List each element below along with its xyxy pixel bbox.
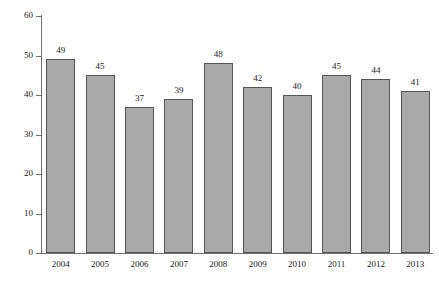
bar[interactable] — [322, 75, 351, 253]
bar-group[interactable]: 49 — [46, 16, 75, 253]
bar-chart: Average concentration of NO₂ (micrograms… — [0, 0, 439, 281]
x-axis-label: 2005 — [80, 258, 119, 270]
y-axis-tick-mark — [36, 253, 41, 254]
bar-group[interactable]: 48 — [204, 16, 233, 253]
x-axis-label: 2009 — [238, 258, 277, 270]
bar-value-label: 41 — [411, 77, 420, 88]
bar-value-label: 39 — [174, 85, 183, 96]
bar[interactable] — [46, 59, 75, 253]
x-axis-line — [41, 253, 433, 254]
bar-value-label: 37 — [135, 93, 144, 104]
y-axis-tick: 10 — [0, 214, 41, 215]
y-axis-tick-label: 20 — [24, 167, 33, 180]
y-axis-tick-label: 50 — [24, 49, 33, 62]
bar[interactable] — [361, 79, 390, 253]
bar-value-label: 45 — [332, 61, 341, 72]
y-axis-tick: 0 — [0, 253, 41, 254]
y-axis-tick-label: 60 — [24, 9, 33, 22]
x-axis-label: 2006 — [120, 258, 159, 270]
bar-value-label: 40 — [293, 81, 302, 92]
y-axis-tick: 30 — [0, 135, 41, 136]
bar-value-label: 42 — [253, 73, 262, 84]
y-axis-tick: 20 — [0, 174, 41, 175]
bar[interactable] — [164, 99, 193, 253]
x-axis-label: 2013 — [396, 258, 435, 270]
bar[interactable] — [86, 75, 115, 253]
y-axis-title-container: Average concentration of NO₂ (micrograms… — [0, 0, 16, 16]
bar[interactable] — [401, 91, 430, 253]
bar-group[interactable]: 40 — [283, 16, 312, 253]
bar-value-label: 44 — [371, 65, 380, 76]
bar[interactable] — [125, 107, 154, 253]
y-axis-tick-label: 30 — [24, 128, 33, 141]
x-axis-label: 2010 — [277, 258, 316, 270]
bar[interactable] — [243, 87, 272, 253]
bar[interactable] — [204, 63, 233, 253]
bar-value-label: 45 — [96, 61, 105, 72]
bar-group[interactable]: 41 — [401, 16, 430, 253]
bar-group[interactable]: 44 — [361, 16, 390, 253]
y-axis-tick: 40 — [0, 95, 41, 96]
x-axis-label: 2012 — [356, 258, 395, 270]
y-axis-tick-label: 10 — [24, 207, 33, 220]
bar-value-label: 48 — [214, 49, 223, 60]
plot-area: 49453739484240454441 — [41, 16, 435, 253]
x-axis-label: 2004 — [41, 258, 80, 270]
x-axis-label: 2007 — [159, 258, 198, 270]
bar[interactable] — [283, 95, 312, 253]
bar-group[interactable]: 37 — [125, 16, 154, 253]
bar-group[interactable]: 45 — [322, 16, 351, 253]
bar-group[interactable]: 45 — [86, 16, 115, 253]
x-axis-label: 2011 — [317, 258, 356, 270]
bar-group[interactable]: 39 — [164, 16, 193, 253]
y-axis-tick-label: 40 — [24, 88, 33, 101]
y-axis-tick: 50 — [0, 56, 41, 57]
x-axis-label: 2008 — [199, 258, 238, 270]
bar-value-label: 49 — [56, 45, 65, 56]
y-axis-tick: 60 — [0, 16, 41, 17]
y-axis-tick-label: 0 — [29, 246, 34, 259]
bar-group[interactable]: 42 — [243, 16, 272, 253]
